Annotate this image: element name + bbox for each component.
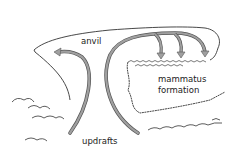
label-mammatus: mammatus [158,74,206,84]
arrowhead-3 [201,51,209,57]
arrowhead-2 [177,52,185,58]
mammatus-bumps [128,61,206,67]
cloud-illustration [0,0,244,155]
low-cloud-right [148,119,222,131]
label-updrafts: updrafts [82,136,118,146]
arrowhead-1 [157,53,165,59]
arrowhead-left [54,48,61,56]
updraft-arrow-left [58,52,89,133]
label-formation: formation [158,85,199,95]
label-anvil: anvil [81,36,101,46]
low-cloud-left [12,98,64,141]
anvil-cloud-diagram: anvil mammatus formation updrafts [0,0,244,155]
